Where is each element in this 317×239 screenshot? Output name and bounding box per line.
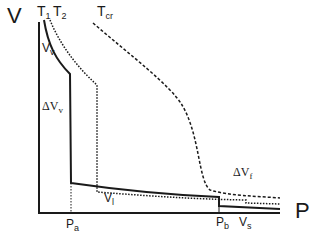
label-vv: Vv (42, 42, 55, 57)
label-delta-vf: ΔVf (233, 166, 252, 181)
phase-diagram (0, 0, 317, 239)
label-delta-vv: ΔVv (42, 100, 63, 115)
label-t2: T2 (53, 4, 67, 21)
y-axis-label: V (7, 5, 22, 27)
x-axis-label: P (295, 200, 310, 222)
label-pa: Pa (66, 218, 79, 233)
label-vl: Vl (104, 192, 114, 207)
label-vs: Vs (239, 216, 252, 231)
label-pb: Pb (216, 216, 229, 231)
label-tcr: Tcr (97, 4, 113, 21)
label-t1: T1 (37, 4, 51, 21)
